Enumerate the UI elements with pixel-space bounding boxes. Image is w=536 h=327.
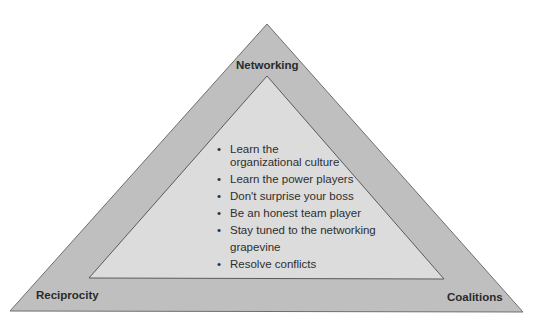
- bullet-dot-icon: •: [217, 258, 221, 271]
- label-networking: Networking: [236, 59, 299, 71]
- bullet-item: • Resolve conflicts: [216, 258, 376, 271]
- bullet-text-continued: grapevine: [230, 241, 376, 254]
- bullet-text-continued: organizational culture: [230, 156, 376, 169]
- bullet-text: Resolve conflicts: [230, 258, 376, 271]
- bullet-text: Learn the power players: [230, 173, 376, 186]
- bullet-dot-icon: •: [217, 143, 221, 156]
- strategy-bullet-list: • Learn the organizational culture • Lea…: [216, 143, 376, 275]
- bullet-dot-icon: •: [217, 173, 221, 186]
- bullet-dot-icon: •: [217, 207, 221, 220]
- label-reciprocity: Reciprocity: [36, 289, 99, 301]
- bullet-text: Don't surprise your boss: [230, 190, 376, 203]
- bullet-text: Stay tuned to the networking: [230, 224, 376, 237]
- bullet-item: • Be an honest team player: [216, 207, 376, 220]
- label-coalitions: Coalitions: [447, 291, 503, 303]
- bullet-item: • Learn the power players: [216, 173, 376, 186]
- bullet-dot-icon: •: [217, 224, 221, 237]
- bullet-text: Be an honest team player: [230, 207, 376, 220]
- bullet-dot-icon: •: [217, 190, 221, 203]
- bullet-item: • Stay tuned to the networking grapevine: [216, 224, 376, 254]
- bullet-item: • Learn the organizational culture: [216, 143, 376, 169]
- bullet-item: • Don't surprise your boss: [216, 190, 376, 203]
- bullet-text: Learn the: [230, 143, 376, 156]
